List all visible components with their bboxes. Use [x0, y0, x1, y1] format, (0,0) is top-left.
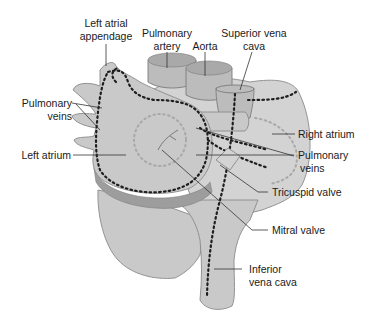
label-pulmonary-veins-left-2: veins: [47, 110, 72, 122]
label-tricuspid-valve: Tricuspid valve: [272, 186, 342, 198]
label-superior-vena-cava-2: cava: [243, 40, 265, 52]
label-pulmonary-artery-1: Pulmonary: [142, 27, 193, 39]
label-pulmonary-veins-right-2: veins: [300, 162, 325, 174]
superior-vena-cava-opening: [216, 85, 254, 93]
aorta-opening: [186, 61, 232, 75]
label-pulmonary-veins-right-1: Pulmonary: [298, 149, 349, 161]
label-inferior-vena-cava-1: Inferior: [249, 263, 282, 275]
label-right-atrium: Right atrium: [298, 128, 355, 140]
label-pulmonary-veins-left-1: Pulmonary: [22, 97, 73, 109]
label-pulmonary-artery-2: artery: [154, 40, 182, 52]
label-inferior-vena-cava-2: vena cava: [249, 276, 297, 288]
label-aorta: Aorta: [192, 40, 217, 52]
label-superior-vena-cava-1: Superior vena: [221, 27, 287, 39]
heart-anatomy-diagram: Left atrial appendage Pulmonary artery A…: [0, 0, 373, 319]
label-left-atrium: Left atrium: [21, 149, 71, 161]
label-left-atrial-appendage-2: appendage: [80, 30, 133, 42]
label-mitral-valve: Mitral valve: [272, 224, 325, 236]
label-left-atrial-appendage-1: Left atrial: [84, 17, 127, 29]
